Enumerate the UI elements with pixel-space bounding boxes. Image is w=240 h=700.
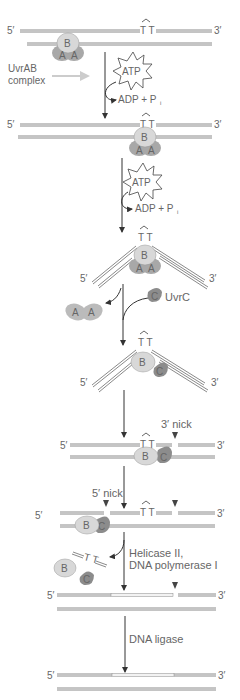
repair-diagram: 5′ T T 3′ B A A UvrAB complex ATP ADP + … <box>0 0 240 700</box>
svg-text:A: A <box>72 307 79 318</box>
svg-text:T T: T T <box>138 337 153 348</box>
svg-text:B: B <box>139 357 146 368</box>
five-nick-label: 5′ nick <box>92 487 123 499</box>
helicase-label-2: DNA polymerase I <box>129 559 218 571</box>
three-nick-label: 3′ nick <box>161 418 192 430</box>
svg-text:5′: 5′ <box>80 273 88 284</box>
step5-dna: 5′ T T 3′ C B <box>60 433 225 465</box>
gray-arrow <box>52 71 90 81</box>
released-uvrb: B <box>54 559 76 577</box>
svg-text:3′: 3′ <box>209 273 217 284</box>
svg-text:i: i <box>177 209 178 215</box>
svg-text:C: C <box>151 291 158 302</box>
svg-text:B: B <box>141 132 148 143</box>
svg-text:C: C <box>83 574 90 585</box>
nick-marker <box>172 432 178 439</box>
svg-text:T T: T T <box>140 507 155 518</box>
released-uvrc: C <box>80 571 95 585</box>
step6-dna: 5′ T T 3′ C B <box>35 500 225 534</box>
svg-text:3′: 3′ <box>218 670 226 681</box>
svg-text:B: B <box>141 250 148 261</box>
atp-burst-1: ATP <box>113 52 152 90</box>
svg-text:3′: 3′ <box>217 440 225 451</box>
svg-text:ADP + P: ADP + P <box>135 203 174 214</box>
svg-text:3′: 3′ <box>217 508 225 519</box>
atp-burst-2: ATP <box>123 163 162 201</box>
svg-text:A: A <box>148 263 155 274</box>
three-prime-label: 3′ <box>214 25 222 36</box>
uvrab-label-2: complex <box>8 75 45 86</box>
svg-text:3′: 3′ <box>214 119 222 130</box>
svg-text:A: A <box>136 145 143 156</box>
step8-dna: 5′ 3′ <box>47 670 226 690</box>
svg-text:A: A <box>88 307 95 318</box>
svg-text:C: C <box>156 366 163 377</box>
excised-fragment: T T <box>72 551 107 567</box>
svg-text:5′: 5′ <box>60 440 68 451</box>
step3-bent-dna: T T 5′ 3′ B A A <box>80 226 217 289</box>
released-uvra-dimer: A A <box>63 301 105 324</box>
svg-text:5′: 5′ <box>35 510 43 521</box>
svg-text:3′: 3′ <box>211 377 219 388</box>
svg-text:A: A <box>59 50 66 61</box>
svg-text:5′: 5′ <box>47 590 55 601</box>
svg-text:B: B <box>142 451 149 462</box>
svg-text:ATP: ATP <box>122 66 141 77</box>
uvrc-protein: C <box>148 288 163 302</box>
uvrab-label-1: UvrAB <box>8 63 37 74</box>
thymine-dimer: T T <box>140 25 155 36</box>
svg-text:5′: 5′ <box>7 119 15 130</box>
svg-text:B: B <box>64 38 71 49</box>
svg-text:i: i <box>160 100 161 106</box>
svg-text:B: B <box>61 563 68 574</box>
uvrc-label: UvrC <box>165 291 190 303</box>
svg-text:3′: 3′ <box>218 590 226 601</box>
nick-marker <box>103 500 109 507</box>
five-prime-label: 5′ <box>7 25 15 36</box>
svg-text:B: B <box>83 520 90 531</box>
step7-dna: 5′ 3′ <box>47 582 226 610</box>
svg-text:ATP: ATP <box>132 177 151 188</box>
adp-label: ADP + P <box>118 94 157 105</box>
svg-text:5′: 5′ <box>47 670 55 681</box>
step1-dna: 5′ T T 3′ B A A <box>7 19 222 61</box>
svg-text:5′: 5′ <box>80 377 88 388</box>
ligase-label: DNA ligase <box>129 633 183 645</box>
step2-dna: 5′ T T 3′ B A A <box>7 113 222 156</box>
new-dna-segment <box>111 594 173 597</box>
svg-text:A: A <box>71 50 78 61</box>
svg-text:T T: T T <box>138 232 153 243</box>
step4-bent-dna: T T 5′ 3′ C B <box>80 331 219 392</box>
helicase-label-1: Helicase II, <box>129 547 183 559</box>
svg-text:A: A <box>136 263 143 274</box>
svg-text:A: A <box>148 145 155 156</box>
svg-text:C: C <box>160 452 167 463</box>
uvrab-complex: B A A <box>52 33 84 61</box>
